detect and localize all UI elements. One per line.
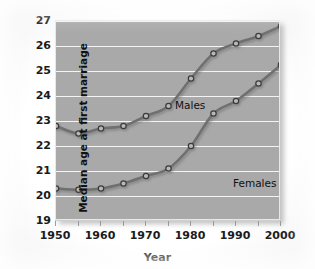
x-axis-tick-mark	[258, 221, 259, 226]
x-axis-tick-label: 2000	[260, 230, 300, 241]
y-axis-tick-label: 20	[30, 190, 51, 201]
y-axis-tick-label: 25	[30, 65, 51, 76]
x-axis-tick-mark	[213, 221, 214, 226]
data-point-marker	[256, 81, 261, 86]
x-axis-tick-mark	[190, 221, 191, 226]
data-point-marker	[166, 103, 171, 108]
data-point-marker	[121, 123, 126, 128]
x-axis-tick-mark	[78, 221, 79, 226]
series-label-females: Females	[233, 177, 276, 189]
x-axis-line	[55, 220, 282, 221]
data-point-marker	[143, 173, 148, 178]
chart-figure: Median age at first marriage Males Femal…	[0, 0, 315, 269]
x-axis-tick-mark	[123, 221, 124, 226]
x-axis-tick-label: 1970	[125, 230, 165, 241]
data-point-marker	[233, 98, 238, 103]
x-axis-tick-label: 1960	[80, 230, 120, 241]
data-point-marker	[211, 51, 216, 56]
series-females	[56, 62, 280, 192]
x-axis-tick-mark	[145, 221, 146, 226]
series-label-males: Males	[175, 99, 205, 111]
y-axis-tick-label: 23	[30, 115, 51, 126]
y-axis-tick-label: 21	[30, 165, 51, 176]
x-axis-tick-label: 1980	[170, 230, 210, 241]
y-axis-tick-label: 19	[30, 215, 51, 226]
y-axis-tick-label: 22	[30, 140, 51, 151]
x-axis-tick-label: 1990	[215, 230, 255, 241]
data-point-marker	[256, 33, 261, 38]
series-males	[56, 23, 280, 136]
data-point-marker	[166, 166, 171, 171]
data-point-marker	[278, 62, 280, 67]
x-axis-tick-mark	[55, 221, 56, 226]
data-point-marker	[188, 76, 193, 81]
data-point-marker	[278, 23, 280, 28]
data-point-marker	[143, 113, 148, 118]
plot-wrapper: Median age at first marriage Males Femal…	[55, 20, 280, 220]
x-axis-tick-mark	[100, 221, 101, 226]
y-axis-tick-label: 27	[30, 15, 51, 26]
series-line	[56, 26, 280, 134]
x-axis-tick-label: 1950	[35, 230, 75, 241]
data-point-marker	[233, 41, 238, 46]
y-axis-tick-label: 26	[30, 40, 51, 51]
x-axis-title: Year	[0, 251, 315, 264]
data-point-marker	[211, 111, 216, 116]
x-axis-tick-mark	[280, 221, 281, 226]
data-point-marker	[188, 143, 193, 148]
series-layer	[56, 21, 280, 220]
data-point-marker	[56, 186, 59, 191]
data-point-marker	[98, 186, 103, 191]
y-axis-tick-label: 24	[30, 90, 51, 101]
data-point-marker	[121, 181, 126, 186]
x-axis-tick-mark	[168, 221, 169, 226]
y-axis-title: Median age at first marriage	[77, 38, 89, 218]
data-point-marker	[98, 126, 103, 131]
x-axis-tick-mark	[235, 221, 236, 226]
data-point-marker	[56, 123, 59, 128]
